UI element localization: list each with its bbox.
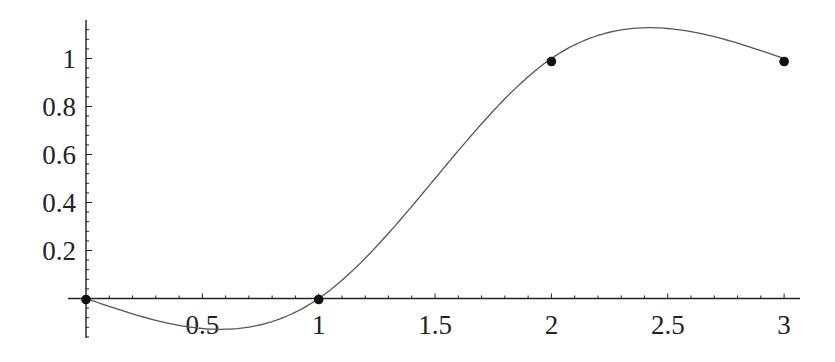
y-tick-label: 0.4 [42, 188, 76, 218]
data-point [314, 295, 324, 305]
y-tick-label: 1 [63, 44, 77, 74]
x-tick-label: 0.5 [185, 310, 219, 340]
x-tick-label: 2 [545, 310, 559, 340]
y-tick-label: 0.8 [42, 92, 76, 122]
data-point [779, 57, 789, 67]
x-tick-label: 1.5 [418, 310, 452, 340]
y-tick-label: 0.6 [42, 140, 76, 170]
tick-labels: 0.511.522.530.20.40.60.81 [42, 44, 791, 341]
spline-plot: 0.511.522.530.20.40.60.81 [0, 0, 835, 362]
x-tick-label: 1 [312, 310, 326, 340]
x-tick-label: 2.5 [651, 310, 685, 340]
axis-ticks [86, 30, 784, 337]
data-points [81, 57, 789, 305]
data-point [81, 295, 91, 305]
data-point [547, 57, 557, 67]
x-tick-label: 3 [777, 310, 791, 340]
y-tick-label: 0.2 [42, 236, 76, 266]
spline-curve [86, 28, 784, 330]
